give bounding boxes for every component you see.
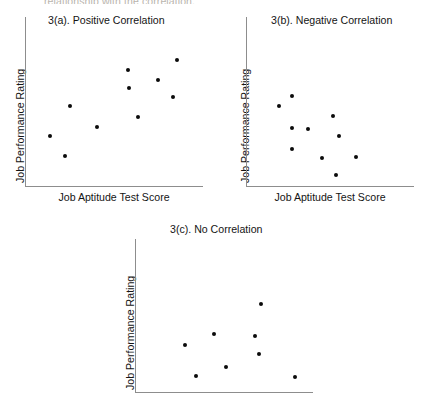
data-point xyxy=(290,94,295,99)
chart-b-title: 3(b). Negative Correlation xyxy=(271,14,392,26)
data-point xyxy=(136,115,141,120)
data-point xyxy=(126,68,131,73)
data-point xyxy=(224,365,229,370)
data-point xyxy=(290,126,295,131)
data-point xyxy=(212,332,217,337)
data-point xyxy=(257,352,262,357)
chart-c-y-axis-line xyxy=(135,239,136,393)
data-point xyxy=(253,334,258,339)
data-point xyxy=(354,155,359,160)
data-point xyxy=(334,173,339,178)
chart-b-y-axis-line xyxy=(246,17,247,187)
data-point xyxy=(127,86,132,91)
data-point xyxy=(48,134,53,139)
chart-a-x-axis-line xyxy=(25,186,203,187)
data-point xyxy=(68,104,73,109)
data-point xyxy=(320,156,325,161)
data-point xyxy=(337,134,342,139)
chart-c-title: 3(c). No Correlation xyxy=(170,223,262,235)
chart-b-x-axis-label: Job Aptitude Test Score xyxy=(246,191,414,203)
data-point xyxy=(63,154,68,159)
data-point xyxy=(171,95,176,100)
chart-panel-no-correlation: 3(c). No Correlation Job Performance Rat… xyxy=(110,215,325,402)
chart-b-x-axis-line xyxy=(246,186,414,187)
data-point xyxy=(194,374,199,379)
figure-canvas: relationship with the correlation. 3(a).… xyxy=(0,0,421,402)
data-point xyxy=(156,78,161,83)
data-point xyxy=(331,114,336,119)
data-point xyxy=(306,127,311,132)
chart-panel-positive-correlation: 3(a). Positive Correlation Job Performan… xyxy=(0,0,215,205)
chart-c-x-axis-line xyxy=(135,392,313,393)
data-point xyxy=(290,147,295,152)
data-point xyxy=(183,343,188,348)
data-point xyxy=(175,58,180,63)
chart-a-x-axis-label: Job Aptitude Test Score xyxy=(25,191,203,203)
chart-panel-negative-correlation: 3(b). Negative Correlation Job Performan… xyxy=(225,0,421,205)
data-point xyxy=(293,375,298,380)
chart-b-y-axis-label: Job Performance Rating xyxy=(239,69,251,183)
data-point xyxy=(277,104,282,109)
chart-a-y-axis-line xyxy=(25,17,26,187)
chart-a-title: 3(a). Positive Correlation xyxy=(48,14,165,26)
data-point xyxy=(95,125,100,130)
data-point xyxy=(259,302,264,307)
